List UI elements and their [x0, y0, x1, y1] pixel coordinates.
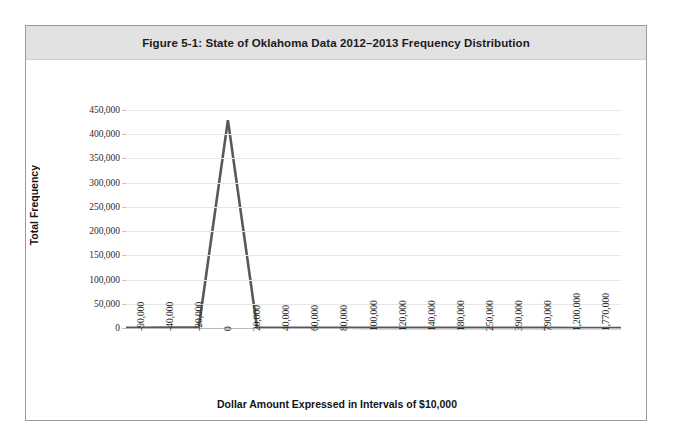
x-tick-label: 0	[223, 326, 233, 331]
y-tick-mark	[122, 328, 126, 329]
y-tick-label: 350,000	[89, 153, 120, 163]
y-tick-label: 400,000	[89, 129, 120, 139]
gridline	[126, 280, 621, 281]
gridline	[126, 183, 621, 184]
y-tick-label: 0	[115, 323, 120, 333]
y-tick-mark	[122, 280, 126, 281]
plot-area	[126, 110, 621, 328]
x-axis-title: Dollar Amount Expressed in Intervals of …	[26, 398, 648, 410]
y-tick-label: 250,000	[89, 202, 120, 212]
figure-title-band: Figure 5-1: State of Oklahoma Data 2012–…	[26, 26, 646, 60]
y-tick-mark	[122, 158, 126, 159]
y-tick-mark	[122, 207, 126, 208]
x-tick-label: 390,000	[514, 300, 524, 331]
y-tick-label: 50,000	[94, 299, 120, 309]
y-axis-tick-labels: 050,000100,000150,000200,000250,000300,0…	[46, 110, 124, 328]
x-tick-label: 80,000	[339, 305, 349, 331]
gridline	[126, 255, 621, 256]
gridline	[126, 207, 621, 208]
x-tick-label: 140,000	[427, 300, 437, 331]
x-tick-label: -20,000	[194, 302, 204, 331]
y-tick-label: 450,000	[89, 105, 120, 115]
y-tick-mark	[122, 304, 126, 305]
y-tick-mark	[122, 183, 126, 184]
gridline	[126, 110, 621, 111]
x-tick-label: 40,000	[281, 305, 291, 331]
x-axis-tick-labels: -90,000-40,000-20,000020,00040,00060,000…	[126, 331, 621, 393]
gridline	[126, 134, 621, 135]
x-tick-label: 120,000	[398, 300, 408, 331]
x-tick-label: 20,000	[252, 305, 262, 331]
y-tick-mark	[122, 255, 126, 256]
y-axis-title: Total Frequency	[28, 165, 44, 245]
line-series-svg	[126, 110, 621, 328]
x-tick-label: -90,000	[136, 302, 146, 331]
x-tick-label: -40,000	[165, 302, 175, 331]
y-tick-label: 200,000	[89, 226, 120, 236]
x-tick-label: 100,000	[369, 300, 379, 331]
chart-body: Total Frequency 050,000100,000150,000200…	[26, 60, 648, 421]
x-tick-label: 1,200,000	[572, 293, 582, 331]
gridline	[126, 231, 621, 232]
y-tick-mark	[122, 110, 126, 111]
figure-frame: Figure 5-1: State of Oklahoma Data 2012–…	[25, 25, 647, 421]
y-tick-label: 300,000	[89, 178, 120, 188]
figure-title: Figure 5-1: State of Oklahoma Data 2012–…	[142, 37, 530, 49]
y-tick-mark	[122, 134, 126, 135]
x-tick-label: 790,000	[543, 300, 553, 331]
y-tick-label: 100,000	[89, 275, 120, 285]
y-tick-mark	[122, 231, 126, 232]
gridline	[126, 158, 621, 159]
x-tick-label: 250,000	[485, 300, 495, 331]
x-tick-label: 1,770,000	[601, 293, 611, 331]
x-tick-label: 180,000	[456, 300, 466, 331]
series-line-total-frequency	[126, 120, 621, 328]
y-tick-label: 150,000	[89, 250, 120, 260]
x-tick-label: 60,000	[310, 305, 320, 331]
